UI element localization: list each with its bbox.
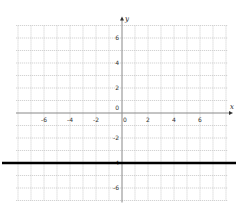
x-axis-label: x — [230, 103, 234, 111]
x-tick-label: -4 — [67, 116, 73, 123]
coordinate-plane: -6-4-202466420-2-4-6 x y — [0, 0, 238, 224]
x-tick-label: -2 — [93, 116, 99, 123]
y-axis-arrow-icon — [120, 17, 124, 21]
y-tick-label: -6 — [113, 184, 119, 191]
x-tick-label: -6 — [41, 116, 47, 123]
y-tick-label: 0 — [115, 104, 119, 111]
y-tick-label: 6 — [115, 34, 119, 41]
axes — [16, 17, 233, 203]
x-tick-label: 2 — [146, 116, 150, 123]
x-tick-label: 4 — [172, 116, 176, 123]
y-tick-label: 2 — [115, 84, 119, 91]
y-tick-label: 4 — [115, 59, 119, 66]
x-axis-arrow-icon — [229, 111, 233, 115]
x-tick-label: 0 — [123, 116, 127, 123]
y-axis-label: y — [124, 15, 130, 23]
y-tick-label: -2 — [113, 134, 119, 141]
x-tick-label: 6 — [198, 116, 202, 123]
